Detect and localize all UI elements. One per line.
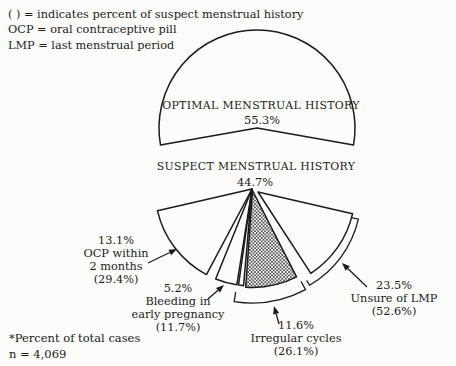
callout-unsure-percent: 23.5% — [351, 279, 438, 292]
arrow-irregular-head — [273, 306, 279, 315]
callout-unsure-name: Unsure of LMP — [351, 292, 438, 305]
callout-irregular-suspect-percent: (26.1%) — [251, 345, 342, 358]
callout-irregular: 11.6% Irregular cycles (26.1%) — [251, 319, 342, 358]
callout-irregular-percent: 11.6% — [251, 319, 342, 332]
callout-unsure-suspect-percent: (52.6%) — [351, 305, 438, 318]
callout-ocp: 13.1% OCP within 2 months (29.4%) — [83, 234, 148, 286]
legend-line-lmp: LMP = last menstrual period — [8, 38, 303, 53]
optimal-slice-label: OPTIMAL MENSTRUAL HISTORY — [162, 99, 360, 112]
callout-bleeding-name-2: early pregnancy — [132, 308, 225, 321]
callout-ocp-name-2: 2 months — [83, 260, 148, 273]
arrow-ocp-shaft — [148, 252, 170, 263]
legend-line-parens: ( ) = indicates percent of suspect menst… — [8, 7, 303, 22]
footnote-block: *Percent of total cases n = 4,069 — [9, 330, 140, 362]
suspect-group-percent: 44.7% — [237, 175, 273, 189]
callout-irregular-name: Irregular cycles — [251, 332, 342, 345]
suspect-group-label: SUSPECT MENSTRUAL HISTORY — [157, 160, 356, 173]
footnote-n: n = 4,069 — [9, 346, 140, 362]
arrow-ocp-head — [168, 249, 177, 255]
callout-unsure: 23.5% Unsure of LMP (52.6%) — [351, 279, 438, 318]
figure-menstrual-history-pie: ( ) = indicates percent of suspect menst… — [0, 0, 456, 366]
legend-line-ocp: OCP = oral contraceptive pill — [8, 22, 303, 37]
callout-bleeding-name-1: Bleeding in — [132, 295, 225, 308]
callout-bleeding-suspect-percent: (11.7%) — [132, 321, 225, 334]
legend-block: ( ) = indicates percent of suspect menst… — [8, 7, 303, 53]
callout-bleeding: 5.2% Bleeding in early pregnancy (11.7%) — [132, 282, 225, 334]
optimal-slice-percent: 55.3% — [244, 113, 280, 127]
callout-ocp-percent: 13.1% — [83, 234, 148, 247]
footnote-percent-of-total: *Percent of total cases — [9, 330, 140, 346]
callout-bleeding-percent: 5.2% — [132, 282, 225, 295]
callout-ocp-name-1: OCP within — [83, 247, 148, 260]
